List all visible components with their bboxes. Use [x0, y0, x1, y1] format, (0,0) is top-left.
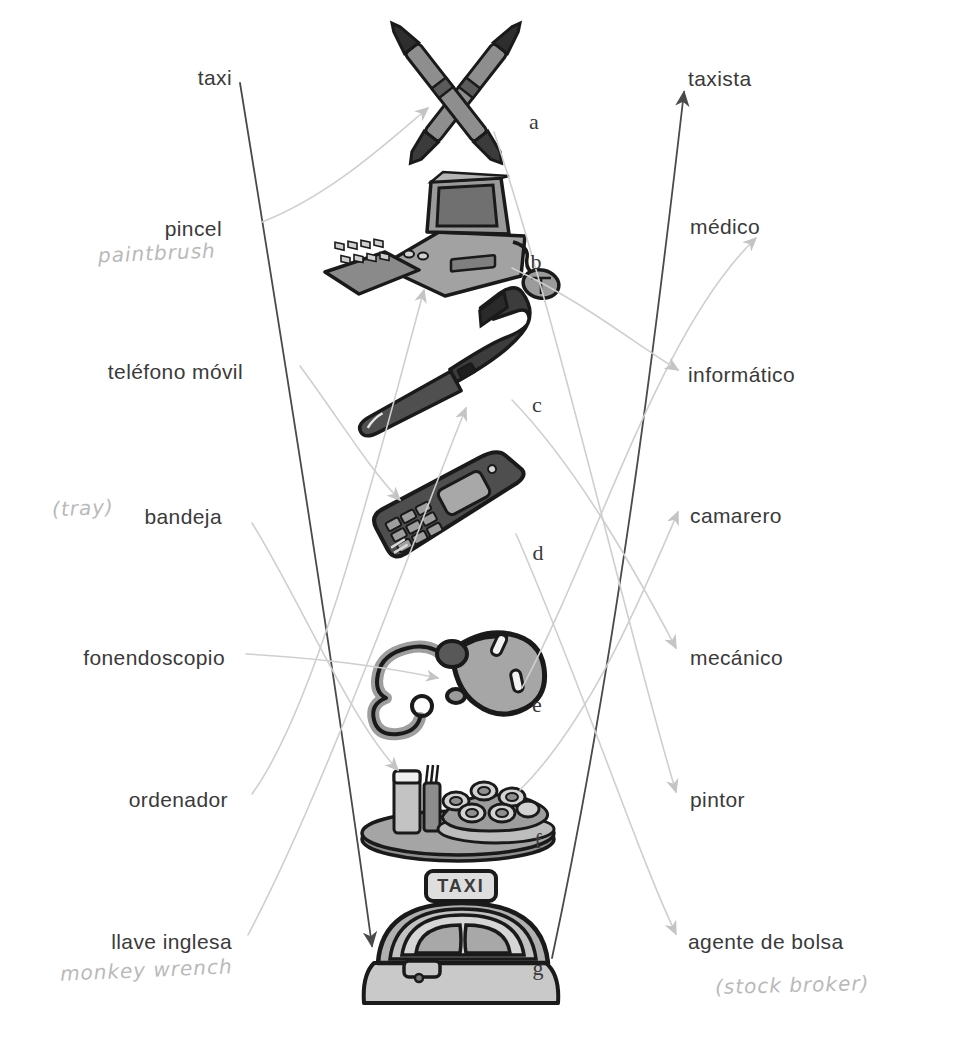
right-label-mecanico[interactable]: mecánico — [690, 647, 783, 668]
picture-food-tray — [362, 765, 554, 861]
left-label-bandeja[interactable]: bandeja — [144, 506, 222, 527]
picture-mobile-phone — [370, 443, 531, 561]
picture-letter-f: f — [534, 828, 541, 854]
left-label-taxi[interactable]: taxi — [198, 67, 232, 88]
annotation-tray: (tray) — [52, 497, 115, 520]
picture-desktop-computer — [325, 172, 562, 301]
left-label-ordenador[interactable]: ordenador — [129, 789, 228, 810]
right-label-taxista[interactable]: taxista — [688, 68, 752, 89]
picture-stethoscope — [373, 633, 544, 735]
picture-artwork-layer: TAXI — [0, 0, 957, 1064]
annotation-paintbrush: paintbrush — [98, 240, 216, 265]
left-label-pincel[interactable]: pincel — [165, 218, 222, 239]
picture-crossed-paintbrushes — [385, 18, 527, 169]
right-label-camarero[interactable]: camarero — [690, 505, 782, 526]
picture-letter-c: c — [532, 392, 542, 418]
picture-letter-e: e — [532, 692, 542, 718]
worksheet-page: TAXI taxi picture g --> brushes a --> ph… — [0, 0, 957, 1064]
right-label-informatico[interactable]: informático — [688, 364, 795, 385]
left-label-telefono-movil[interactable]: teléfono móvil — [108, 361, 243, 382]
right-label-pintor[interactable]: pintor — [690, 789, 745, 810]
picture-letter-g: g — [533, 955, 544, 981]
picture-taxi-car: TAXI — [364, 871, 559, 1003]
picture-adjustable-wrench — [334, 283, 550, 441]
picture-letter-b: b — [531, 249, 542, 275]
annotation-stock-broker: (stock broker) — [715, 973, 870, 997]
right-label-medico[interactable]: médico — [690, 216, 760, 237]
picture-letter-a: a — [529, 109, 539, 135]
left-label-llave-inglesa[interactable]: llave inglesa — [111, 931, 232, 952]
right-label-agente-de-bolsa[interactable]: agente de bolsa — [688, 931, 843, 952]
left-label-fonendoscopio[interactable]: fonendoscopio — [83, 647, 225, 668]
svg-text:TAXI: TAXI — [437, 876, 485, 896]
picture-letter-d: d — [533, 540, 544, 566]
